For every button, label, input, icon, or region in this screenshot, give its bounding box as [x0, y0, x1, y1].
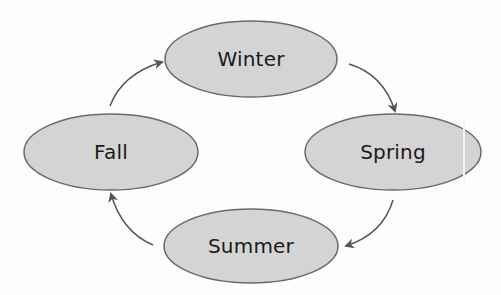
- node-fall-shape: [24, 114, 198, 190]
- scan-artifact-line: [463, 116, 465, 188]
- diagram-canvas: Winter Spring Summer Fall: [0, 0, 501, 295]
- season-cycle-diagram: [0, 0, 501, 295]
- arrow-summer-to-fall: [111, 194, 153, 245]
- node-spring-shape: [305, 114, 481, 190]
- node-summer-shape: [164, 209, 338, 283]
- arrow-spring-to-summer: [346, 200, 393, 246]
- arrow-fall-to-winter: [110, 62, 162, 106]
- node-winter-shape: [165, 21, 337, 97]
- arrow-winter-to-spring: [349, 64, 395, 111]
